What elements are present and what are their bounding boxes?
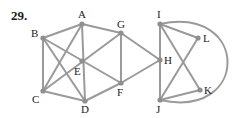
- vertex-label-k: K: [204, 84, 212, 96]
- vertex-label-d: D: [81, 103, 89, 115]
- edge-j-l: [160, 38, 198, 100]
- vertex-label-a: A: [78, 8, 86, 20]
- vertex-label-j: J: [156, 103, 161, 115]
- edge-i-l: [160, 24, 198, 38]
- graph-diagram: ABCDEFGHIJKL: [0, 0, 239, 118]
- vertex-label-g: G: [117, 18, 125, 30]
- vertex-c: [40, 88, 45, 93]
- vertex-label-l: L: [203, 32, 210, 44]
- vertex-label-f: F: [117, 86, 123, 98]
- vertex-i: [157, 21, 162, 26]
- vertex-e: [79, 58, 84, 63]
- vertex-g: [118, 30, 123, 35]
- vertex-label-b: B: [31, 27, 38, 39]
- vertex-b: [40, 35, 45, 40]
- edge-g-h: [121, 33, 160, 60]
- vertex-j: [157, 97, 162, 102]
- edge-f-h: [121, 60, 160, 83]
- edge-a-g: [82, 24, 121, 33]
- vertex-f: [118, 80, 123, 85]
- vertex-h: [157, 57, 162, 62]
- vertex-label-i: I: [157, 8, 161, 20]
- vertex-a: [79, 21, 84, 26]
- vertex-label-e: E: [74, 65, 81, 77]
- vertex-l: [195, 35, 200, 40]
- edge-d-f: [85, 83, 121, 101]
- vertex-label-c: C: [32, 93, 39, 105]
- vertex-label-h: H: [164, 54, 172, 66]
- vertex-k: [197, 87, 202, 92]
